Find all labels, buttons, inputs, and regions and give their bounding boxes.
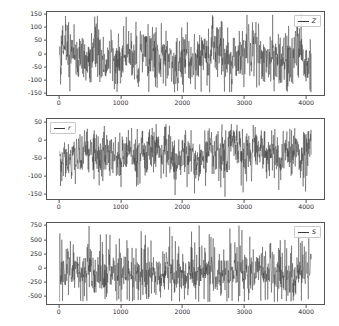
- legend-line-swatch-s: [298, 232, 309, 233]
- x-tick-label: 0: [57, 204, 61, 210]
- y-tick-mark: [44, 175, 47, 176]
- y-tick-label: 100: [30, 24, 42, 30]
- x-tick-label: 4000: [298, 309, 314, 315]
- legend-label-s: S: [312, 229, 316, 235]
- x-tick-label: 0: [57, 309, 61, 315]
- x-tick-label: 2000: [175, 100, 191, 106]
- legend-line-swatch-r: [54, 128, 65, 129]
- y-tick-mark: [44, 122, 47, 123]
- y-tick-mark: [44, 27, 47, 28]
- figure-canvas: Z -150-100-50050100150 01000200030004000…: [0, 0, 339, 326]
- y-tick-mark: [44, 80, 47, 81]
- y-tick-mark: [44, 53, 47, 54]
- legend-line-swatch-z: [298, 21, 309, 22]
- y-tick-label: 50: [34, 119, 42, 125]
- y-tick-mark: [44, 239, 47, 240]
- y-tick-mark: [44, 93, 47, 94]
- y-tick-mark: [44, 253, 47, 254]
- y-tick-mark: [44, 66, 47, 67]
- x-tick-label: 1000: [113, 309, 129, 315]
- y-tick-label: -50: [32, 155, 42, 161]
- x-tick-label: 0: [57, 100, 61, 106]
- y-tick-label: -250: [28, 279, 42, 285]
- x-tick-label: 2000: [175, 204, 191, 210]
- y-tick-label: 0: [38, 265, 42, 271]
- y-tick-label: 250: [30, 251, 42, 257]
- y-tick-label: -150: [28, 190, 42, 196]
- series-line-r: [47, 119, 324, 199]
- x-tick-label: 4000: [298, 100, 314, 106]
- y-tick-label: 150: [30, 11, 42, 17]
- chart-panel-s: S -500-2500250500750 01000200030004000: [46, 222, 325, 305]
- y-tick-mark: [44, 225, 47, 226]
- legend-r[interactable]: r: [50, 122, 76, 134]
- y-tick-mark: [44, 140, 47, 141]
- y-tick-label: -100: [28, 173, 42, 179]
- x-tick-label: 1000: [113, 204, 129, 210]
- series-line-z: [47, 12, 324, 95]
- y-tick-mark: [44, 267, 47, 268]
- y-tick-mark: [44, 13, 47, 14]
- y-tick-label: -100: [28, 77, 42, 83]
- x-tick-label: 4000: [298, 204, 314, 210]
- legend-label-z: Z: [312, 18, 316, 24]
- y-tick-mark: [44, 193, 47, 194]
- chart-panel-r: r -150-100-50050 01000200030004000: [46, 118, 325, 200]
- y-tick-label: -50: [32, 64, 42, 70]
- plot-area-s: S: [46, 222, 325, 305]
- y-tick-label: 0: [38, 137, 42, 143]
- y-tick-label: 0: [38, 50, 42, 56]
- y-tick-label: 500: [30, 236, 42, 242]
- legend-label-r: r: [68, 125, 71, 131]
- y-tick-label: -500: [28, 293, 42, 299]
- y-tick-label: -150: [28, 90, 42, 96]
- y-tick-mark: [44, 40, 47, 41]
- x-tick-label: 3000: [236, 204, 252, 210]
- legend-z[interactable]: Z: [294, 15, 321, 27]
- x-tick-label: 2000: [175, 309, 191, 315]
- plot-area-z: Z: [46, 11, 325, 96]
- y-tick-mark: [44, 158, 47, 159]
- y-tick-mark: [44, 281, 47, 282]
- chart-panel-z: Z -150-100-50050100150 01000200030004000: [46, 11, 325, 96]
- y-tick-mark: [44, 296, 47, 297]
- x-tick-label: 1000: [113, 100, 129, 106]
- y-tick-label: 750: [30, 222, 42, 228]
- x-tick-label: 3000: [236, 100, 252, 106]
- legend-s[interactable]: S: [294, 226, 321, 238]
- x-tick-label: 3000: [236, 309, 252, 315]
- plot-area-r: r: [46, 118, 325, 200]
- series-line-s: [47, 223, 324, 304]
- y-tick-label: 50: [34, 37, 42, 43]
